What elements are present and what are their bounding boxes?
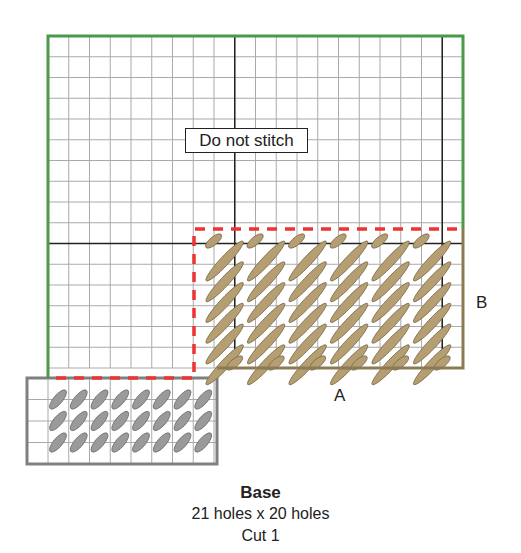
- do-not-stitch-text: Do not stitch: [199, 131, 294, 151]
- piece-dimensions: 21 holes x 20 holes: [0, 505, 521, 523]
- piece-title: Base: [0, 483, 521, 503]
- piece-cut-count: Cut 1: [0, 527, 521, 545]
- edge-label-a: A: [334, 386, 345, 406]
- do-not-stitch-label: Do not stitch: [185, 128, 308, 153]
- stitch-diagram: [0, 0, 521, 553]
- tan-stitch-section: [203, 232, 454, 388]
- gray-tab-section: [27, 378, 217, 464]
- edge-label-b: B: [476, 293, 487, 313]
